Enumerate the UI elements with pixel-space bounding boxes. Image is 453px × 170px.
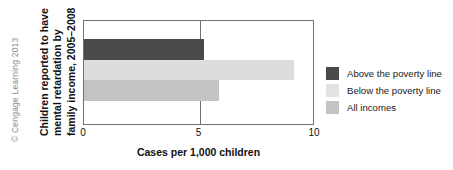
x-tick-label-0: 0: [80, 127, 86, 138]
legend-label-above-the-poverty-line: Above the poverty line: [347, 68, 442, 79]
y-axis-title-line-1: Children reported to have: [38, 8, 51, 136]
y-axis-title: Children reported to have mental retarda…: [38, 8, 82, 136]
plot-area: [83, 20, 314, 125]
legend-label-all-incomes: All incomes: [347, 102, 396, 113]
x-tick-label-5: 5: [196, 127, 202, 138]
bar-above-the-poverty-line: [84, 39, 204, 60]
legend: Above the poverty line Below the poverty…: [326, 66, 442, 117]
legend-item-below-the-poverty-line: Below the poverty line: [326, 83, 442, 98]
legend-item-above-the-poverty-line: Above the poverty line: [326, 66, 442, 81]
legend-swatch-icon-below-the-poverty-line: [326, 84, 339, 97]
y-axis-title-line-2: mental retardation by: [51, 8, 64, 136]
legend-swatch-icon-above-the-poverty-line: [326, 67, 339, 80]
bar-chart-figure: © Cengage Learning 2013 Children reporte…: [0, 0, 453, 170]
x-tick-label-10: 10: [308, 127, 319, 138]
copyright-credit: © Cengage Learning 2013: [10, 26, 24, 142]
legend-item-all-incomes: All incomes: [326, 100, 442, 115]
legend-label-below-the-poverty-line: Below the poverty line: [347, 85, 441, 96]
x-axis-title: Cases per 1,000 children: [83, 146, 314, 158]
bar-below-the-poverty-line: [84, 60, 294, 81]
y-axis-title-line-3: family income, 2005–2008: [65, 8, 78, 136]
bar-all-incomes: [84, 80, 219, 101]
legend-swatch-icon-all-incomes: [326, 101, 339, 114]
